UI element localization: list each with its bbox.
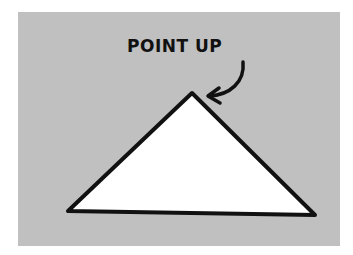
triangle-shape [68, 93, 315, 215]
annotation-label: POINT UP [127, 36, 222, 56]
illustration: POINT UP [0, 0, 353, 255]
